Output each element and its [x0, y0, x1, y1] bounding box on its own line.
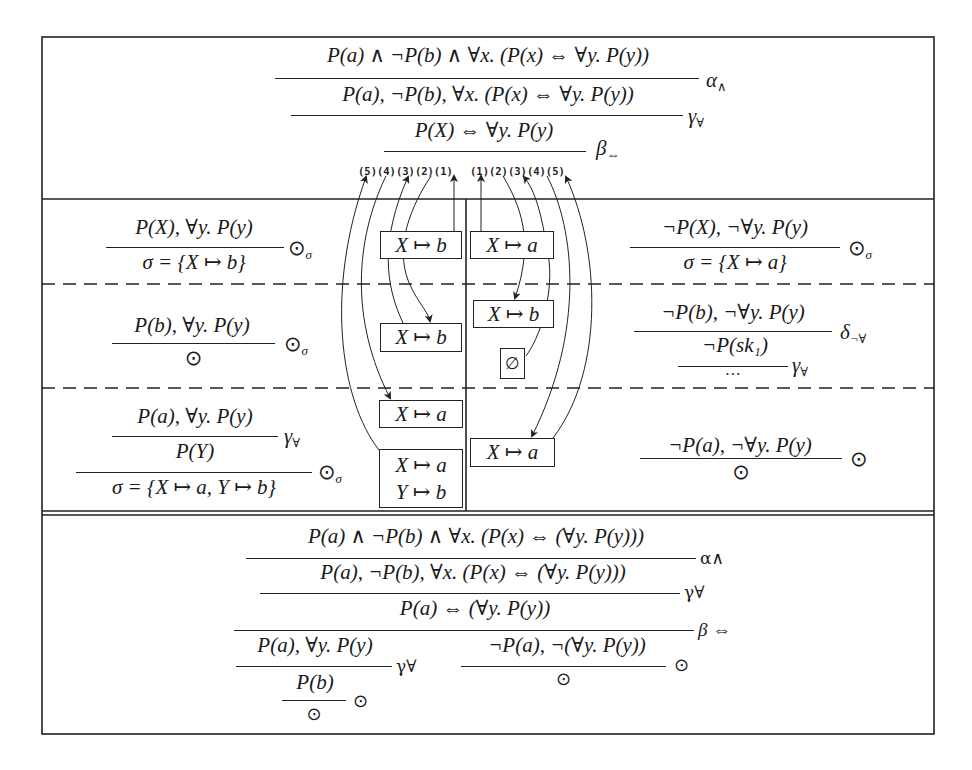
rule-gamma-forall: γ∀ — [396, 658, 416, 675]
rule-close: ⊙ — [674, 656, 689, 674]
bottom-left-premise: P(a), ∀y. P(y) — [240, 635, 390, 656]
inference-bar — [630, 247, 840, 248]
bottom-formula-3: P(a) ⇔ (∀y. P(y)) — [360, 598, 590, 619]
rule-close-sigma: ⊙σ — [284, 334, 308, 357]
rule-gamma: γ∀ — [688, 106, 704, 129]
rule-close: ⊙ — [353, 692, 368, 710]
subst-box-left-2: X ↦ b — [380, 323, 462, 352]
right-step-labels: (1)(2)(3)(4)(5) — [470, 165, 565, 177]
formula-line-2: P(a), ¬P(b), ∀x. (P(x) ⇔ ∀y. P(y)) — [298, 84, 678, 105]
inference-bar — [246, 558, 696, 559]
right-row3-premise: ¬P(a), ¬∀y. P(y) — [650, 435, 830, 456]
right-row2-conclusion: … — [678, 362, 788, 378]
inference-bar — [76, 472, 312, 473]
left-row2-conclusion: ⊙ — [112, 348, 275, 369]
inference-bar — [291, 115, 683, 116]
right-row2-middle: ¬P(sk₁) — [680, 335, 790, 356]
left-row3-middle: P(Y) — [115, 441, 275, 462]
inference-bar — [640, 458, 842, 459]
bottom-right-closed: ⊙ — [461, 670, 666, 688]
bottom-right-premise: ¬P(a), ¬(∀y. P(y)) — [468, 635, 666, 656]
right-row1-conclusion: σ = {X ↦ a} — [640, 252, 830, 273]
inference-bar — [282, 700, 346, 701]
rule-close: ⊙ — [850, 449, 868, 470]
rule-delta: δ¬∀ — [840, 322, 866, 345]
rule-gamma-forall: γ∀ — [684, 584, 704, 601]
bottom-left-middle: P(b) — [280, 672, 350, 693]
subst-box-right-empty: ∅ — [500, 348, 525, 379]
subst-box-right-1: X ↦ a — [470, 231, 554, 259]
left-step-labels: (5)(4)(3)(2)(1) — [358, 165, 453, 177]
left-row1-premise: P(X), ∀y. P(y) — [108, 217, 280, 238]
subst-box-left-1: X ↦ b — [380, 231, 462, 259]
subst-box-right-4: X ↦ a — [470, 438, 555, 467]
formula-line-3: P(X) ⇔ ∀y. P(y) — [382, 120, 586, 141]
rule-beta-iff: β ⇔ — [698, 620, 731, 639]
rule-close-sigma: ⊙σ — [848, 238, 872, 261]
inference-bar — [112, 436, 278, 437]
right-row2-premise: ¬P(b), ¬∀y. P(y) — [636, 302, 830, 323]
bottom-left-closed: ⊙ — [282, 705, 346, 723]
rule-alpha-and: α∧ — [700, 550, 724, 567]
inference-bar — [260, 593, 680, 594]
inference-bar — [234, 630, 694, 631]
rule-beta: β⇔ — [596, 138, 619, 161]
rule-gamma: γ∀ — [284, 426, 300, 449]
rule-alpha: α∧ — [706, 70, 727, 93]
right-row3-conclusion: ⊙ — [640, 462, 842, 483]
bottom-formula-1: P(a) ∧ ¬P(b) ∧ ∀x. (P(x) ⇔ (∀y. P(y))) — [256, 526, 696, 547]
rule-close-sigma: ⊙σ — [318, 462, 342, 485]
inference-bar — [106, 247, 284, 248]
right-row1-premise: ¬P(X), ¬∀y. P(y) — [640, 217, 830, 238]
inference-bar — [384, 151, 586, 152]
inference-bar — [634, 331, 832, 332]
tableau-diagram: P(a) ∧ ¬P(b) ∧ ∀x. (P(x) ⇔ ∀y. P(y)) α∧ … — [0, 0, 972, 770]
inference-bar — [461, 666, 666, 667]
left-row3-premise: P(a), ∀y. P(y) — [115, 406, 275, 427]
inference-bar — [112, 343, 275, 344]
inference-bar — [275, 78, 699, 79]
inference-bar — [236, 666, 392, 667]
bottom-formula-2: P(a), ¬P(b), ∀x. (P(x) ⇔ (∀y. P(y))) — [268, 562, 678, 583]
left-row1-conclusion: σ = {X ↦ b} — [108, 252, 280, 273]
subst-box-left-4: X ↦ aY ↦ b — [379, 449, 463, 508]
formula-line-1: P(a) ∧ ¬P(b) ∧ ∀x. (P(x) ⇔ ∀y. P(y)) — [286, 45, 690, 66]
subst-box-left-3: X ↦ a — [379, 400, 463, 428]
left-row3-conclusion: σ = {X ↦ a, Y ↦ b} — [76, 477, 312, 498]
left-row2-premise: P(b), ∀y. P(y) — [112, 315, 272, 336]
rule-gamma: γ∀ — [792, 355, 808, 378]
rule-close-sigma: ⊙σ — [288, 238, 312, 261]
subst-box-right-2: X ↦ b — [473, 300, 554, 328]
